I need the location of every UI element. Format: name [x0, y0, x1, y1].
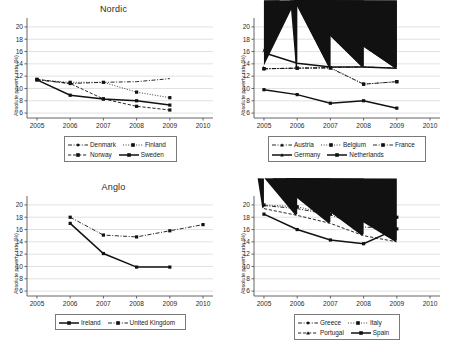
- legend-label: Ireland: [81, 319, 101, 326]
- svg-text:8: 8: [246, 275, 250, 282]
- svg-text:12: 12: [16, 250, 24, 257]
- svg-text:10: 10: [16, 85, 24, 92]
- svg-text:2006: 2006: [63, 122, 78, 129]
- svg-text:6: 6: [19, 109, 23, 116]
- svg-text:6: 6: [246, 109, 250, 116]
- svg-text:2009: 2009: [162, 300, 177, 307]
- legend-label: Norway: [90, 151, 112, 158]
- legend-line-icon: [298, 323, 318, 341]
- svg-text:2005: 2005: [257, 300, 272, 307]
- svg-text:2007: 2007: [96, 122, 111, 129]
- legend-item-sweden[interactable]: Sweden: [119, 145, 164, 163]
- svg-text:16: 16: [16, 48, 24, 55]
- legend-label: Netherlands: [349, 151, 383, 158]
- svg-text:2007: 2007: [323, 122, 338, 129]
- svg-text:20: 20: [243, 23, 251, 30]
- svg-text:2008: 2008: [356, 122, 371, 129]
- legend-item-norway[interactable]: Norway: [68, 145, 112, 163]
- svg-text:2006: 2006: [290, 122, 305, 129]
- svg-text:8: 8: [19, 275, 23, 282]
- svg-text:14: 14: [243, 238, 251, 245]
- svg-text:2010: 2010: [196, 122, 211, 129]
- legend-label: Portugal: [320, 329, 344, 336]
- svg-text:2008: 2008: [129, 300, 144, 307]
- svg-text:20: 20: [243, 201, 251, 208]
- legend-item-germany[interactable]: Germany: [272, 145, 320, 163]
- svg-text:2008: 2008: [129, 122, 144, 129]
- svg-text:6: 6: [246, 287, 250, 294]
- svg-text:20: 20: [16, 23, 24, 30]
- legend-label: France: [395, 141, 415, 148]
- legend-line-icon: [108, 313, 128, 331]
- svg-text:8: 8: [19, 97, 23, 104]
- legend-label: Spain: [373, 329, 389, 336]
- legend-item-netherlands[interactable]: Netherlands: [327, 145, 383, 163]
- legend-row: IrelandUnited Kingdom: [59, 317, 182, 327]
- svg-text:6: 6: [19, 287, 23, 294]
- chart-legend: AustriaBelgiumFranceGermanyNetherlands: [268, 136, 426, 162]
- svg-text:8: 8: [246, 97, 250, 104]
- figure-grid: NordicAbsolute poverty rate (%)681012141…: [0, 0, 453, 357]
- legend-line-icon: [327, 145, 347, 163]
- svg-text:2010: 2010: [423, 122, 438, 129]
- svg-text:18: 18: [16, 36, 24, 43]
- svg-text:16: 16: [243, 226, 251, 233]
- svg-text:18: 18: [16, 214, 24, 221]
- svg-text:2006: 2006: [290, 300, 305, 307]
- legend-line-icon: [272, 145, 292, 163]
- legend-item-ireland[interactable]: Ireland: [59, 313, 101, 331]
- svg-text:12: 12: [243, 72, 251, 79]
- svg-text:2005: 2005: [30, 122, 45, 129]
- svg-text:12: 12: [16, 72, 24, 79]
- chart-panel-southern-europe: Southern EuropeAbsolute poverty rate (%)…: [227, 178, 453, 357]
- svg-text:2006: 2006: [63, 300, 78, 307]
- svg-text:2005: 2005: [257, 122, 272, 129]
- legend-row: NorwaySweden: [68, 149, 173, 159]
- svg-text:2009: 2009: [389, 122, 404, 129]
- legend-label: Sweden: [141, 151, 164, 158]
- svg-text:2009: 2009: [162, 122, 177, 129]
- svg-text:10: 10: [243, 85, 251, 92]
- svg-text:2009: 2009: [389, 300, 404, 307]
- chart-legend: GreeceItalyPortugalSpain: [294, 314, 400, 340]
- chart-legend: IrelandUnited Kingdom: [55, 314, 186, 330]
- svg-text:12: 12: [243, 250, 251, 257]
- svg-text:16: 16: [243, 48, 251, 55]
- svg-text:14: 14: [16, 60, 24, 67]
- svg-text:14: 14: [243, 60, 251, 67]
- legend-label: Germany: [294, 151, 320, 158]
- svg-text:10: 10: [243, 263, 251, 270]
- svg-text:2010: 2010: [423, 300, 438, 307]
- svg-text:14: 14: [16, 238, 24, 245]
- svg-text:2007: 2007: [96, 300, 111, 307]
- legend-line-icon: [68, 145, 88, 163]
- legend-line-icon: [351, 323, 371, 341]
- svg-text:10: 10: [16, 263, 24, 270]
- chart-legend: DenmarkFinlandNorwaySweden: [64, 136, 177, 162]
- chart-panel-western-europe: Western EuropeAbsolute poverty rate (%)6…: [227, 0, 453, 178]
- chart-panel-anglo: AngloAbsolute poverty rate (%)6810121416…: [0, 178, 227, 357]
- legend-line-icon: [119, 145, 139, 163]
- svg-text:16: 16: [16, 226, 24, 233]
- svg-text:2008: 2008: [356, 300, 371, 307]
- svg-text:18: 18: [243, 214, 251, 221]
- legend-item-spain[interactable]: Spain: [351, 323, 389, 341]
- svg-text:18: 18: [243, 36, 251, 43]
- svg-text:2010: 2010: [196, 300, 211, 307]
- legend-label: United Kingdom: [130, 319, 175, 326]
- svg-text:2005: 2005: [30, 300, 45, 307]
- svg-text:20: 20: [16, 201, 24, 208]
- legend-line-icon: [59, 313, 79, 331]
- legend-item-united-kingdom[interactable]: United Kingdom: [108, 313, 175, 331]
- chart-panel-nordic: NordicAbsolute poverty rate (%)681012141…: [0, 0, 227, 178]
- svg-text:2007: 2007: [323, 300, 338, 307]
- legend-item-portugal[interactable]: Portugal: [298, 323, 344, 341]
